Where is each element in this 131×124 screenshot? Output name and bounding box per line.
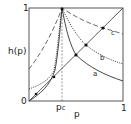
origin-tick: 0 [21,97,27,106]
critical-subscript: c [62,104,66,112]
intersection-left-2 [53,76,56,79]
intersection-c-right [101,26,104,29]
x-axis-label: p [74,110,80,119]
curve-c [29,8,123,69]
intersection-a-right [74,53,77,56]
x-right-tick: 1 [121,104,127,113]
y-top-tick: 1 [23,4,29,13]
peak-point [61,8,64,11]
intersection-b-right [84,43,87,46]
intersection-left-1 [35,93,38,96]
curve-c-label: c [111,30,115,37]
y-axis-label: h(p) [8,47,26,56]
curve-b-label: b [100,55,104,62]
critical-label: pc [56,103,66,112]
curve-a-label: a [93,71,97,78]
